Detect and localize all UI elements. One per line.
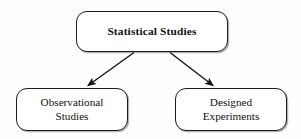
node-statistical-studies[interactable]: Statistical Studies	[76, 11, 228, 52]
statistical-studies-diagram: Statistical Studies Observational Studie…	[0, 0, 301, 139]
node-designed-experiments-label: Designed Experiments	[203, 96, 260, 122]
edge-root-to-observational	[88, 53, 134, 86]
node-designed-experiments[interactable]: Designed Experiments	[175, 88, 287, 131]
node-statistical-studies-label: Statistical Studies	[107, 25, 196, 38]
node-observational-studies-label: Observational Studies	[41, 96, 104, 122]
edge-root-to-designed	[170, 53, 213, 86]
node-observational-studies[interactable]: Observational Studies	[16, 88, 128, 131]
